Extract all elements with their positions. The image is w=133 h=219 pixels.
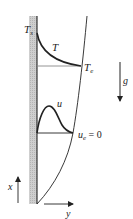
velocity-profile-curve (37, 106, 73, 133)
edge-temperature-label: Te (84, 61, 93, 75)
edge-velocity-label: ue = 0 (78, 129, 102, 142)
temperature-profile-curve (37, 33, 81, 66)
temperature-profile-label: T (52, 41, 59, 53)
x-axis-label: x (7, 181, 13, 192)
velocity-profile-label: u (57, 98, 62, 109)
boundary-layer-diagram: Ts T Te g u ue = 0 x y (0, 0, 133, 219)
gravity-label: g (123, 75, 128, 86)
heated-wall (29, 16, 37, 204)
y-axis-label: y (65, 208, 71, 219)
